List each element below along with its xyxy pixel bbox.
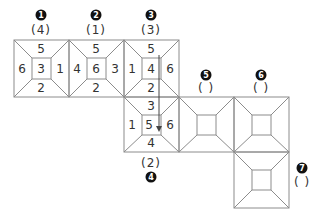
face-1-top: 5 xyxy=(37,43,45,55)
answer-2: (1) xyxy=(86,24,106,36)
face-4-right: 6 xyxy=(166,119,174,131)
face-2-top: 5 xyxy=(92,43,100,55)
marker-6: 6 xyxy=(256,70,267,81)
face-3-center: 4 xyxy=(147,63,155,75)
marker-7: 7 xyxy=(297,163,308,174)
face-1-right: 1 xyxy=(56,63,64,75)
face-1-bottom: 2 xyxy=(37,82,45,94)
face-3-left: 1 xyxy=(128,63,136,75)
face-2-bottom: 2 xyxy=(92,82,100,94)
marker-1: 1 xyxy=(36,10,47,21)
face-2-right: 3 xyxy=(111,63,119,75)
face-2-left: 4 xyxy=(73,63,81,75)
face-3-bottom: 2 xyxy=(147,82,155,94)
face-1-center: 3 xyxy=(37,63,45,75)
face-4-top: 3 xyxy=(147,100,155,112)
net-square-6 xyxy=(234,97,289,152)
answer-1: (4) xyxy=(31,24,51,36)
answer-3: (3) xyxy=(141,24,161,36)
marker-4: 4 xyxy=(146,172,157,183)
marker-3: 3 xyxy=(146,10,157,21)
net-square-7 xyxy=(234,152,289,208)
answer-7: ( ) xyxy=(294,176,310,188)
answer-4: (2) xyxy=(141,157,161,169)
face-3-right: 6 xyxy=(166,63,174,75)
answer-5: ( ) xyxy=(198,82,214,94)
face-3-top: 5 xyxy=(147,43,155,55)
answer-6: ( ) xyxy=(253,82,269,94)
face-4-bottom: 4 xyxy=(147,137,155,149)
marker-2: 2 xyxy=(91,10,102,21)
face-2-center: 6 xyxy=(92,63,100,75)
marker-5: 5 xyxy=(201,70,212,81)
face-4-center: 5 xyxy=(145,119,153,131)
face-1-left: 6 xyxy=(18,63,26,75)
net-square-5 xyxy=(179,97,234,152)
face-4-left: 1 xyxy=(128,119,136,131)
